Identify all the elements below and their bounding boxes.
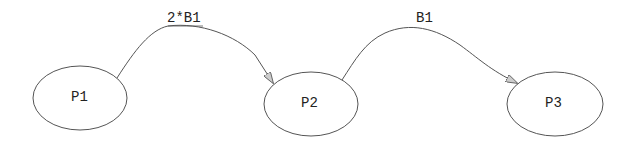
edge-label-p2-p3: B1 <box>416 10 433 26</box>
node-label: P2 <box>301 95 318 111</box>
node-p2: P2 <box>264 72 358 136</box>
node-p3: P3 <box>507 72 603 136</box>
node-label: P3 <box>545 95 562 111</box>
arrow-p1-p2 <box>117 25 273 83</box>
petri-net-diagram: 2*B1 B1 P1 P2 P3 <box>0 0 629 147</box>
edge-label-p1-p2: 2*B1 <box>167 10 201 26</box>
edge-p2-p3: B1 <box>342 10 517 83</box>
node-p1: P1 <box>33 66 127 130</box>
arrow-p2-p3 <box>342 27 517 83</box>
edge-p1-p2: 2*B1 <box>117 10 273 83</box>
node-label: P1 <box>71 89 88 105</box>
